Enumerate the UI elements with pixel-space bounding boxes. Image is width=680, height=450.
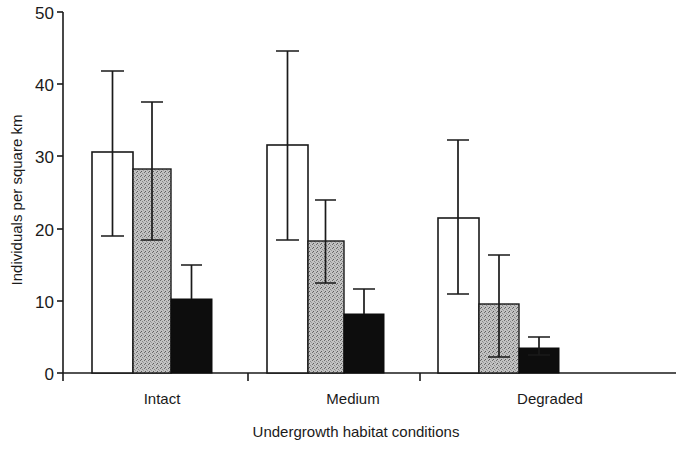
bar-group-degraded	[438, 140, 559, 373]
y-tick-label-50: 50	[35, 4, 54, 23]
category-label-intact: Intact	[144, 390, 182, 407]
y-axis-title: Individuals per square km	[8, 115, 25, 286]
y-tick-label-30: 30	[35, 148, 54, 167]
y-tick-label-10: 10	[35, 293, 54, 312]
x-axis-category-labels: Intact Medium Degraded	[144, 390, 583, 407]
errorbar-medium-black	[353, 289, 375, 314]
bar-chart-figure: 50 40 30 20 10 0	[0, 0, 680, 450]
y-tick-label-40: 40	[35, 76, 54, 95]
category-label-degraded: Degraded	[517, 390, 583, 407]
bar-group-medium	[267, 51, 384, 373]
category-label-medium: Medium	[326, 390, 379, 407]
y-axis-tick-marks	[57, 12, 63, 373]
bar-group-intact	[92, 71, 212, 373]
bar-intact-black[interactable]	[171, 299, 212, 373]
bar-medium-black[interactable]	[344, 314, 384, 373]
y-tick-label-0: 0	[45, 365, 54, 384]
chart-canvas: 50 40 30 20 10 0	[0, 0, 680, 450]
x-axis-tick-marks	[63, 373, 420, 381]
x-axis-title: Undergrowth habitat conditions	[253, 423, 460, 440]
y-axis-tick-labels: 50 40 30 20 10 0	[35, 4, 54, 384]
y-tick-label-20: 20	[35, 221, 54, 240]
errorbar-intact-black	[181, 265, 202, 299]
